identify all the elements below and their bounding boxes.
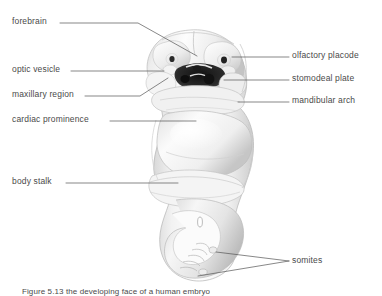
label-maxillary-region: maxillary region <box>12 89 74 99</box>
stomodeum-aperture-left <box>180 75 189 83</box>
stomodeum-aperture-right <box>204 74 215 84</box>
label-mandibular-arch: mandibular arch <box>292 95 355 105</box>
neural-tube-marker <box>198 217 203 227</box>
somite-block <box>199 269 207 275</box>
label-forebrain: forebrain <box>12 16 47 26</box>
label-optic-vesicle: optic vesicle <box>12 64 60 74</box>
embryo-illustration <box>0 0 382 296</box>
label-olfactory-placode: olfactory placode <box>292 50 359 60</box>
label-body-stalk: body stalk <box>12 176 52 186</box>
label-somites: somites <box>292 255 322 265</box>
embryo-body-group <box>146 30 253 281</box>
cardiac-prominence-highlight <box>170 119 222 149</box>
embryo-figure: forebrain optic vesicle maxillary region… <box>0 0 382 296</box>
figure-caption: Figure 5.13 the developing face of a hum… <box>22 287 210 296</box>
label-stomodeal-plate: stomodeal plate <box>292 73 354 83</box>
olfactory-placode-right-pit <box>221 57 227 64</box>
label-cardiac-prominence: cardiac prominence <box>12 114 89 124</box>
olfactory-placode-left-pit <box>169 56 174 62</box>
stomodeum-aperture-top <box>193 65 201 71</box>
